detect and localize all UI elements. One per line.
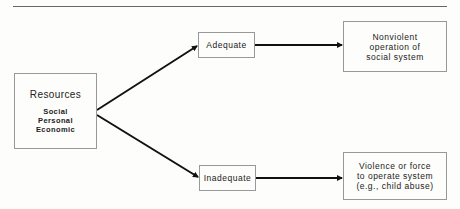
resources-items: Social Personal Economic <box>36 107 75 134</box>
violence-line-2: to operate system <box>357 171 433 181</box>
resources-box: Resources Social Personal Economic <box>14 73 97 149</box>
arrow-resources-to-inadequate <box>97 115 198 177</box>
violence-line-1: Violence or force <box>359 161 431 171</box>
nonviolent-line-3: social system <box>366 52 424 62</box>
inadequate-label: Inadequate <box>204 173 252 183</box>
adequate-box: Adequate <box>198 32 255 58</box>
adequate-label: Adequate <box>206 40 246 50</box>
resources-title: Resources <box>30 89 81 100</box>
inadequate-box: Inadequate <box>199 165 256 191</box>
arrow-resources-to-adequate <box>97 46 197 110</box>
resources-item-social: Social <box>43 107 68 116</box>
nonviolent-line-2: operation of <box>370 42 421 52</box>
nonviolent-outcome-box: Nonviolent operation of social system <box>343 21 447 72</box>
resources-item-personal: Personal <box>38 116 73 125</box>
violence-outcome-box: Violence or force to operate system (e.g… <box>343 152 447 200</box>
top-rule <box>13 6 447 7</box>
nonviolent-line-1: Nonviolent <box>372 32 417 42</box>
resources-item-economic: Economic <box>36 125 75 134</box>
violence-line-3: (e.g., child abuse) <box>356 181 433 191</box>
